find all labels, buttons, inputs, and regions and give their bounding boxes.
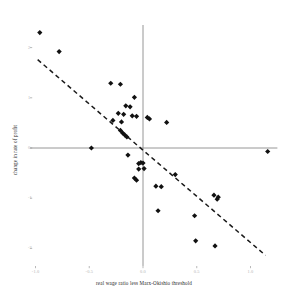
data-point-marker (153, 184, 158, 189)
data-point-marker (37, 30, 42, 35)
trendline (38, 60, 266, 256)
data-point-marker (136, 166, 141, 171)
x-tick-label: 0.0 (140, 270, 146, 274)
data-point-marker (193, 238, 198, 243)
plot-canvas (0, 0, 289, 300)
data-point-marker (134, 114, 139, 119)
data-point-marker (118, 82, 123, 87)
data-point-marker (108, 81, 113, 86)
data-point-marker (57, 49, 62, 54)
data-point-marker (123, 103, 128, 108)
data-point-marker (164, 120, 169, 125)
data-point-marker (128, 104, 133, 109)
data-point-marker (130, 113, 135, 118)
x-tick-label: -0.5 (86, 270, 93, 274)
x-tick-label: 1.0 (248, 270, 254, 274)
x-tick-label: -1.0 (32, 270, 39, 274)
axes-group (30, 25, 277, 266)
data-point-marker (159, 184, 164, 189)
data-point-marker (132, 95, 137, 100)
data-point-marker (119, 119, 124, 124)
scatter-plot-figure: -1.0-0.50.00.51.0210-1-2 real wage ratio… (0, 0, 289, 300)
data-point-marker (116, 111, 121, 116)
x-tick-label: 0.5 (194, 270, 200, 274)
data-point-marker (141, 166, 146, 171)
data-points-group (37, 30, 270, 249)
data-point-marker (265, 149, 270, 154)
x-axis-label: real wage ratio less Marx-Okishio thresh… (96, 281, 192, 286)
data-point-marker (121, 112, 126, 117)
data-point-marker (125, 152, 130, 157)
data-point-marker (89, 145, 94, 150)
data-point-marker (173, 172, 178, 177)
data-point-marker (192, 213, 197, 218)
trendline-path (38, 60, 266, 256)
data-point-marker (212, 243, 217, 248)
data-point-marker (155, 208, 160, 213)
data-point-marker (211, 193, 216, 198)
y-axis-label: change in rate of profit (13, 125, 18, 175)
